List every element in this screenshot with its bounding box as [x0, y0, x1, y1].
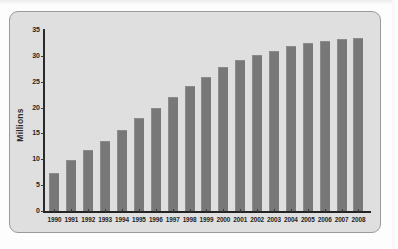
x-axis-tick-mark: [122, 209, 123, 212]
x-axis-tick-mark: [173, 209, 174, 212]
y-axis-tick-mark: [41, 82, 44, 83]
y-axis-tick-label: 20: [26, 103, 40, 113]
y-axis-tick-label-text: 35: [32, 25, 40, 35]
x-axis-tick-label: 1998: [181, 214, 198, 226]
y-axis-tick-label-text: 15: [32, 128, 40, 138]
x-axis-tick-mark: [206, 209, 207, 212]
bar-slot: [299, 30, 316, 211]
x-axis-tick-mark: [325, 209, 326, 212]
x-axis-tick-mark: [223, 209, 224, 212]
bar[interactable]: [269, 51, 279, 211]
x-axis-tick-mark: [257, 209, 258, 212]
x-axis-tick-mark: [105, 209, 106, 212]
bar[interactable]: [117, 130, 127, 211]
bar-slot: [333, 30, 350, 211]
plot-area: [44, 30, 369, 211]
bar[interactable]: [252, 55, 262, 211]
y-axis-tick-label: 15: [26, 128, 40, 138]
y-axis-tick-mark: [41, 133, 44, 134]
x-axis-tick-mark: [71, 209, 72, 212]
x-axis-tick-label: 1992: [80, 214, 97, 226]
bar[interactable]: [49, 173, 59, 211]
bar-slot: [215, 30, 232, 211]
bar-slot: [164, 30, 181, 211]
bar-slot: [80, 30, 97, 211]
x-axis-tick-label: 2003: [266, 214, 283, 226]
bar[interactable]: [201, 77, 211, 211]
bar-slot: [316, 30, 333, 211]
y-axis-tick-labels: 35302520151050: [26, 24, 40, 216]
x-axis-tick-label: 2004: [282, 214, 299, 226]
x-axis-tick-mark: [308, 209, 309, 212]
x-axis-tick-mark: [274, 209, 275, 212]
bar[interactable]: [185, 86, 195, 211]
x-axis-tick-label: 1995: [130, 214, 147, 226]
bar[interactable]: [100, 141, 110, 211]
bar-slot: [97, 30, 114, 211]
x-axis-tick-label: 2007: [333, 214, 350, 226]
bar[interactable]: [168, 97, 178, 211]
bar[interactable]: [286, 46, 296, 211]
bar[interactable]: [151, 108, 161, 211]
figure-right-edge: [392, 0, 398, 249]
x-axis-tick-mark: [190, 209, 191, 212]
bar-slot: [63, 30, 80, 211]
y-axis-tick-mark: [41, 159, 44, 160]
bar-slot: [350, 30, 367, 211]
bar[interactable]: [353, 38, 363, 211]
x-axis-tick-label: 2001: [232, 214, 249, 226]
bar[interactable]: [218, 67, 228, 211]
x-axis-tick-mark: [54, 209, 55, 212]
y-axis-tick-label-text: 25: [32, 77, 40, 87]
y-axis-tick-label: 10: [26, 154, 40, 164]
y-axis-tick-label: 30: [26, 51, 40, 61]
bar[interactable]: [320, 41, 330, 211]
bar-slot: [46, 30, 63, 211]
bar-slot: [266, 30, 283, 211]
x-axis-tick-label: 1997: [164, 214, 181, 226]
y-axis-tick-mark: [41, 185, 44, 186]
y-axis-tick-label-text: 5: [36, 180, 40, 190]
bar-slot: [181, 30, 198, 211]
bar[interactable]: [134, 118, 144, 211]
bar-slot: [232, 30, 249, 211]
x-axis-tick-label: 1990: [46, 214, 63, 226]
y-axis-tick-label: 35: [26, 25, 40, 35]
y-axis-tick-label: 0: [26, 206, 40, 216]
y-axis-tick-label: 5: [26, 180, 40, 190]
x-axis-tick-mark: [291, 209, 292, 212]
x-axis-tick-mark: [240, 209, 241, 212]
x-axis-tick-label: 2008: [350, 214, 367, 226]
x-axis-tick-mark: [156, 209, 157, 212]
bar[interactable]: [337, 39, 347, 211]
x-axis-tick-mark: [358, 209, 359, 212]
y-axis-tick-mark: [41, 56, 44, 57]
x-axis-tick-label: 2005: [299, 214, 316, 226]
bar[interactable]: [66, 160, 76, 211]
y-axis-tick-mark: [41, 211, 44, 212]
bar-slot: [282, 30, 299, 211]
y-axis-tick-label: 25: [26, 77, 40, 87]
x-axis-tick-label: 1999: [198, 214, 215, 226]
bar-series: [44, 30, 369, 211]
y-axis-tick-mark: [41, 108, 44, 109]
bar[interactable]: [235, 60, 245, 211]
x-axis-tick-label: 1991: [63, 214, 80, 226]
x-axis-tick-label: 2000: [215, 214, 232, 226]
x-axis-tick-label: 1996: [147, 214, 164, 226]
y-axis-tick-label-text: 30: [32, 51, 40, 61]
bar[interactable]: [83, 150, 93, 211]
x-axis-tick-label: 2002: [249, 214, 266, 226]
x-axis-tick-labels: 1990199119921993199419951996199719981999…: [44, 214, 369, 226]
bar-slot: [147, 30, 164, 211]
bar[interactable]: [303, 43, 313, 211]
bar-slot: [249, 30, 266, 211]
x-axis-tick-mark: [88, 209, 89, 212]
y-axis-tick-label-text: 10: [32, 154, 40, 164]
figure-top-edge: [0, 0, 398, 4]
chart-figure: Millions 35302520151050 1990199119921993…: [0, 0, 398, 249]
bar-slot: [130, 30, 147, 211]
x-axis-tick-label: 1993: [97, 214, 114, 226]
bar-slot: [114, 30, 131, 211]
y-axis-label-text: Millions: [15, 108, 25, 141]
